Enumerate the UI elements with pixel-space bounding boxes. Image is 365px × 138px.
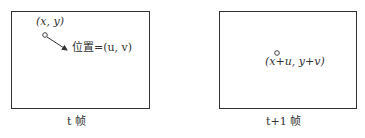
motion-label: 位置=(u, v) — [72, 42, 132, 54]
caption-frame-t-plus-1: t+1 帧 — [266, 116, 301, 128]
motion-vector-arrow — [47, 37, 67, 50]
point-marker-t — [43, 33, 48, 38]
point-label-t: (x, y) — [36, 16, 64, 28]
caption-frame-t: t 帧 — [67, 116, 86, 128]
point-label-t-plus-1: (x+u, y+v) — [265, 56, 325, 68]
